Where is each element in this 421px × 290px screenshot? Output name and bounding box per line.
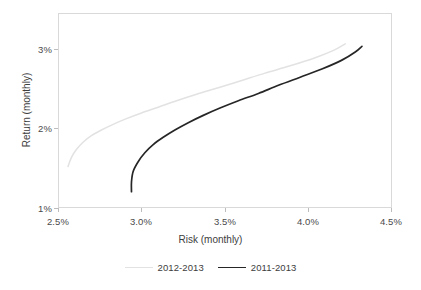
y-tick-mark-2 bbox=[54, 128, 58, 129]
chart-legend: 2012-2013 2011-2013 bbox=[0, 262, 421, 273]
y-tick-mark-3 bbox=[54, 49, 58, 50]
y-tick-label-1: 1% bbox=[18, 203, 52, 214]
x-tick-mark-1 bbox=[58, 208, 59, 212]
x-tick-label-5: 4.5% bbox=[369, 216, 413, 227]
x-tick-mark-5 bbox=[391, 208, 392, 212]
x-tick-label-3: 3.5% bbox=[203, 216, 247, 227]
legend-swatch-2011-2013 bbox=[218, 267, 246, 268]
x-tick-mark-4 bbox=[308, 208, 309, 212]
series-line-2011-2013 bbox=[131, 46, 362, 191]
efficient-frontier-chart: 3% 2% 1% 2.5% 3.0% 3.5% 4.0% 4.5% Risk (… bbox=[0, 0, 421, 290]
x-tick-label-2: 3.0% bbox=[119, 216, 163, 227]
x-tick-mark-2 bbox=[141, 208, 142, 212]
legend-item-2011-2013[interactable]: 2011-2013 bbox=[218, 262, 297, 273]
legend-label-2011-2013: 2011-2013 bbox=[251, 262, 297, 273]
legend-swatch-2012-2013 bbox=[125, 267, 153, 268]
x-axis-title: Risk (monthly) bbox=[0, 234, 421, 245]
x-tick-label-1: 2.5% bbox=[36, 216, 80, 227]
series-line-2012-2013 bbox=[68, 44, 345, 167]
y-axis-title-container: Return (monthly) bbox=[16, 25, 30, 195]
legend-item-2012-2013[interactable]: 2012-2013 bbox=[125, 262, 204, 273]
x-tick-mark-3 bbox=[225, 208, 226, 212]
y-axis-title: Return (monthly) bbox=[21, 73, 32, 147]
x-tick-label-4: 4.0% bbox=[286, 216, 330, 227]
plot-curves bbox=[58, 13, 392, 208]
legend-label-2012-2013: 2012-2013 bbox=[158, 262, 204, 273]
